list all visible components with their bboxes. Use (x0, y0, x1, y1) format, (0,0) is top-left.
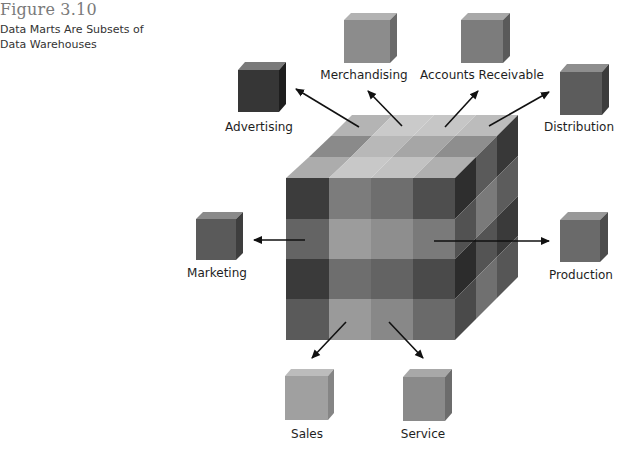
label-sales: Sales (291, 427, 323, 441)
label-marketing: Marketing (187, 266, 247, 280)
label-merchandising: Merchandising (320, 68, 407, 82)
mart-cube-service (403, 369, 452, 421)
mart-cube-advertising (238, 62, 286, 112)
label-service: Service (401, 427, 445, 441)
mart-cube-production (560, 212, 608, 262)
label-production: Production (549, 268, 613, 282)
label-advertising: Advertising (225, 120, 293, 134)
mart-cube-marketing (196, 212, 243, 260)
label-distribution: Distribution (544, 120, 614, 134)
warehouse-cube (286, 115, 518, 340)
mart-cube-distribution (560, 64, 609, 115)
mart-cube-merchandising (344, 13, 397, 63)
arrow-to-distribution (489, 92, 549, 126)
arrow-to-advertising (296, 89, 359, 127)
label-accounts-receivable: Accounts Receivable (420, 68, 544, 82)
mart-cube-accounts-receivable (461, 13, 510, 63)
mart-cube-sales (285, 369, 334, 420)
cube-front-face (286, 178, 455, 340)
